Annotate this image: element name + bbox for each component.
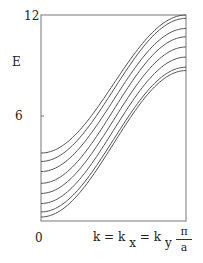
x-sub-y: y [165,236,172,250]
band-curves [41,15,186,217]
x-tick-label-pi-over-a: π a [176,226,192,253]
band-curve-7 [41,67,186,212]
pi-numerator: π [180,225,187,238]
a-denominator: a [181,241,188,254]
x-sub-x: x [129,236,136,250]
y-axis-label: E [12,56,21,68]
fraction-bar [176,239,192,240]
y-tick-label-12: 12 [24,10,39,22]
band-curve-5 [41,47,186,193]
band-curve-4 [41,37,186,183]
x-label-eq: = k [136,230,161,244]
band-structure-plot [0,0,203,263]
x-label-k: k = k [93,230,125,244]
plot-frame [41,15,186,221]
y-tick-label-6: 6 [15,110,23,122]
x-origin-label: 0 [35,232,43,244]
band-curve-3 [41,28,186,171]
x-axis-label: k = kx = ky [93,231,172,243]
